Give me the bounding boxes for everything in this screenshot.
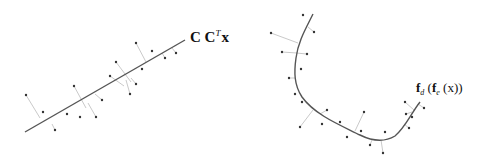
- projection-line: [26, 95, 40, 118]
- data-point: [423, 107, 425, 109]
- data-point: [66, 113, 68, 115]
- projection-line: [355, 112, 364, 131]
- principal-subspace-line: [25, 40, 185, 132]
- projection-line: [110, 76, 124, 86]
- data-point: [79, 116, 81, 118]
- data-point: [281, 51, 283, 53]
- data-point: [101, 99, 103, 101]
- projection-line: [296, 53, 307, 54]
- data-point: [164, 57, 166, 59]
- data-point: [54, 129, 56, 131]
- data-point: [135, 42, 137, 44]
- data-point: [346, 136, 348, 138]
- data-point: [408, 127, 410, 129]
- data-point: [115, 61, 117, 63]
- data-point: [25, 94, 27, 96]
- data-point: [313, 31, 315, 33]
- projection-line: [271, 33, 298, 43]
- data-point: [175, 52, 177, 54]
- projection-line: [136, 43, 146, 62]
- nonlinear-reconstruction-label: fd (fe (x)): [416, 80, 463, 97]
- data-point: [294, 93, 296, 95]
- right-panel-nonlinear-autoencoder: [270, 14, 425, 154]
- data-point: [300, 68, 302, 70]
- data-point: [363, 111, 365, 113]
- projection-line: [381, 140, 383, 153]
- projection-line: [74, 86, 86, 108]
- data-point: [360, 130, 362, 132]
- data-point: [95, 116, 97, 118]
- projection-line: [300, 110, 313, 127]
- projection-line: [88, 103, 96, 117]
- projection-line: [95, 94, 102, 100]
- linear-reconstruction-label: C CTx: [190, 28, 229, 45]
- left-panel-linear-projection: [25, 40, 185, 132]
- data-point: [151, 50, 153, 52]
- data-point: [129, 93, 131, 95]
- data-point: [42, 111, 44, 113]
- projection-line: [320, 110, 327, 114]
- data-point: [301, 101, 303, 103]
- projection-line: [405, 102, 414, 110]
- data-point: [339, 121, 341, 123]
- data-point: [270, 32, 272, 34]
- projection-line: [126, 80, 130, 94]
- data-point: [302, 14, 304, 16]
- data-point: [141, 68, 143, 70]
- data-point: [306, 53, 308, 55]
- data-point: [382, 152, 384, 154]
- data-point: [73, 85, 75, 87]
- data-point: [288, 77, 290, 79]
- data-point: [109, 75, 111, 77]
- projection-line: [282, 52, 297, 53]
- data-point: [321, 123, 323, 125]
- diagram-canvas: C CTx fd (fe (x)): [0, 0, 485, 160]
- data-point: [135, 83, 137, 85]
- data-point: [384, 131, 386, 133]
- data-point: [369, 144, 371, 146]
- data-point: [404, 101, 406, 103]
- data-point: [326, 109, 328, 111]
- data-point: [299, 126, 301, 128]
- data-point: [405, 113, 407, 115]
